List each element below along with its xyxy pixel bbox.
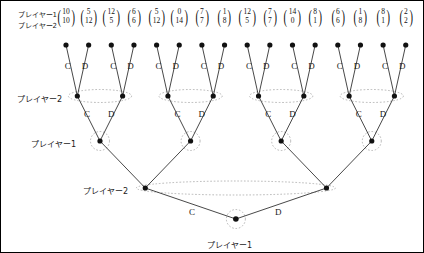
tree-canvas bbox=[1, 1, 424, 253]
terminal-node bbox=[222, 42, 227, 47]
terminal-node bbox=[199, 42, 204, 47]
action-label-d: D bbox=[199, 109, 206, 119]
terminal-node bbox=[86, 42, 91, 47]
decision-node-player2 bbox=[143, 185, 148, 190]
action-label-c: C bbox=[356, 109, 362, 119]
tree-edge bbox=[100, 141, 145, 188]
terminal-node bbox=[313, 42, 318, 47]
decision-node-player1 bbox=[188, 138, 193, 143]
action-label-d: D bbox=[354, 61, 361, 71]
action-label-d: D bbox=[172, 61, 179, 71]
action-label-c: C bbox=[155, 61, 161, 71]
decision-node-player1 bbox=[369, 138, 374, 143]
action-label-d: D bbox=[399, 61, 406, 71]
action-label-c: C bbox=[110, 61, 116, 71]
action-label-d: D bbox=[380, 109, 387, 119]
terminal-node bbox=[177, 42, 182, 47]
terminal-node bbox=[267, 42, 272, 47]
action-label-c: C bbox=[246, 61, 252, 71]
player-turn-label: プレイヤー1 bbox=[207, 239, 252, 250]
decision-node-player2 bbox=[347, 93, 352, 98]
game-tree-figure: プレイヤー1 プレイヤー2 (1010)(512)(125)(66)(512)(… bbox=[0, 0, 424, 253]
action-label-d: D bbox=[308, 61, 315, 71]
terminal-node bbox=[335, 42, 340, 47]
decision-node-player2 bbox=[324, 185, 329, 190]
terminal-node bbox=[245, 42, 250, 47]
action-label-c: C bbox=[201, 61, 207, 71]
action-label-c: C bbox=[382, 61, 388, 71]
action-label-c: C bbox=[65, 61, 71, 71]
action-label-d: D bbox=[108, 109, 115, 119]
terminal-node bbox=[358, 42, 363, 47]
terminal-node bbox=[403, 42, 408, 47]
terminal-node bbox=[290, 42, 295, 47]
terminal-node bbox=[381, 42, 386, 47]
action-label-d: D bbox=[218, 61, 225, 71]
decision-node-player2 bbox=[392, 93, 397, 98]
action-label-c: C bbox=[175, 109, 181, 119]
tree-edge bbox=[281, 141, 326, 188]
decision-node-player2 bbox=[75, 93, 80, 98]
player-turn-label: プレイヤー1 bbox=[31, 138, 76, 149]
decision-node-player1 bbox=[97, 138, 102, 143]
decision-node-player2 bbox=[301, 93, 306, 98]
action-label-c: C bbox=[265, 109, 271, 119]
action-label-d: D bbox=[82, 61, 89, 71]
action-label-d: D bbox=[289, 109, 296, 119]
player-turn-label: プレイヤー2 bbox=[83, 185, 128, 196]
action-label-c: C bbox=[291, 61, 297, 71]
terminal-node bbox=[109, 42, 114, 47]
information-set-layer bbox=[68, 90, 403, 229]
action-label-d: D bbox=[275, 207, 282, 217]
action-label-c: C bbox=[84, 109, 90, 119]
root-node-player1 bbox=[233, 216, 239, 222]
action-label-d: D bbox=[263, 61, 270, 71]
terminal-node bbox=[154, 42, 159, 47]
decision-node-player1 bbox=[279, 138, 284, 143]
decision-node-player2 bbox=[256, 93, 261, 98]
tree-edge bbox=[145, 141, 190, 188]
terminal-node bbox=[63, 42, 68, 47]
decision-node-player2 bbox=[211, 93, 216, 98]
decision-node-player2 bbox=[120, 93, 125, 98]
player-turn-label: プレイヤー2 bbox=[17, 93, 62, 104]
decision-node-player2 bbox=[165, 93, 170, 98]
action-label-c: C bbox=[337, 61, 343, 71]
action-label-d: D bbox=[127, 61, 134, 71]
tree-edge bbox=[326, 141, 371, 188]
terminal-node bbox=[131, 42, 136, 47]
information-set-player2-bottom bbox=[136, 181, 335, 195]
action-label-c: C bbox=[189, 207, 195, 217]
